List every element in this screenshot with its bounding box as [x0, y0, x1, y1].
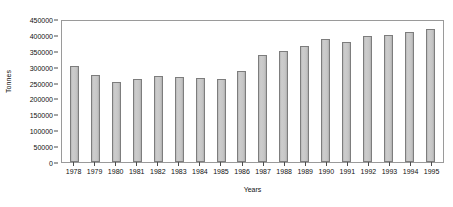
y-axis-tick-label: 100000: [30, 128, 53, 135]
y-axis-tick-mark: [54, 163, 58, 164]
bar-1994: [405, 32, 414, 162]
x-axis-tick-label: 1992: [358, 168, 379, 180]
bar-slot: [357, 21, 378, 162]
bar-1989: [300, 46, 309, 162]
y-axis-tick-labels: 0500001000001500002000002500003000003500…: [18, 14, 58, 167]
x-axis-tick-slot: [168, 162, 189, 167]
x-axis-tick-slot: [63, 162, 84, 167]
x-axis-tick-mark: [178, 162, 179, 166]
bar-slot: [378, 21, 399, 162]
x-axis-tick-slot: [295, 162, 316, 167]
bar-1982: [154, 76, 163, 162]
x-axis-tick-label: 1981: [126, 168, 147, 180]
x-axis-tick-mark: [263, 162, 264, 166]
bar-1990: [321, 39, 330, 162]
x-axis-tick-label: 1984: [189, 168, 210, 180]
bar-slot: [420, 21, 441, 162]
y-axis-tick-label: 0: [49, 160, 53, 167]
bar-1981: [133, 79, 142, 162]
x-axis-tick-label: 1980: [105, 168, 126, 180]
y-axis-tick-label: 450000: [30, 17, 53, 24]
x-axis-tick-slot: [84, 162, 105, 167]
y-axis-tick-label: 150000: [30, 112, 53, 119]
x-axis-tick-mark: [284, 162, 285, 166]
y-axis-tick-mark: [54, 147, 58, 148]
x-axis-tick-mark: [220, 162, 221, 166]
x-axis-tick-slot: [337, 162, 358, 167]
bar-1978: [70, 66, 79, 162]
y-axis-tick-label: 200000: [30, 96, 53, 103]
y-axis-title-label: Tonnes: [6, 70, 13, 93]
x-axis-tick-mark: [431, 162, 432, 166]
bar-1993: [384, 35, 393, 162]
y-axis-tick-mark: [54, 35, 58, 36]
x-axis-tick-mark: [389, 162, 390, 166]
x-axis-tick-mark: [94, 162, 95, 166]
x-axis-tick-label: 1982: [147, 168, 168, 180]
x-axis-tick-slot: [253, 162, 274, 167]
y-axis-tick-mark: [54, 99, 58, 100]
bar-1988: [279, 51, 288, 162]
y-axis-tick-label: 250000: [30, 80, 53, 87]
bar-slot: [106, 21, 127, 162]
bars-layer: [62, 21, 443, 162]
x-axis-title: Years: [61, 186, 444, 193]
plot-area: [61, 20, 444, 163]
y-axis-tick-label: 50000: [34, 144, 53, 151]
bar-1986: [237, 71, 246, 162]
x-axis-tick-label: 1979: [84, 168, 105, 180]
bar-chart-figure: Tonnes 050000100000150000200000250000300…: [0, 0, 453, 207]
bar-slot: [169, 21, 190, 162]
bar-slot: [294, 21, 315, 162]
y-axis-tick-label: 300000: [30, 64, 53, 71]
y-axis-tick-mark: [54, 83, 58, 84]
x-axis-tick-slot: [274, 162, 295, 167]
bar-1980: [112, 82, 121, 162]
x-axis-tick-slot: [379, 162, 400, 167]
x-axis-tick-label: 1994: [400, 168, 421, 180]
x-axis-tick-label: 1983: [168, 168, 189, 180]
bar-slot: [211, 21, 232, 162]
x-axis-tick-label: 1986: [232, 168, 253, 180]
y-axis-tick-mark: [54, 20, 58, 21]
bar-slot: [399, 21, 420, 162]
bar-1987: [258, 55, 267, 162]
x-axis-tick-mark: [305, 162, 306, 166]
x-axis-tick-slot: [421, 162, 442, 167]
bar-slot: [336, 21, 357, 162]
y-axis-tick-mark: [54, 51, 58, 52]
y-axis-tick-label: 400000: [30, 32, 53, 39]
x-axis-tick-slot: [316, 162, 337, 167]
x-axis-tick-label: 1987: [253, 168, 274, 180]
x-axis-tick-label: 1995: [421, 168, 442, 180]
x-axis-tick-label: 1989: [295, 168, 316, 180]
x-axis-tick-slot: [210, 162, 231, 167]
x-axis-tick-slot: [147, 162, 168, 167]
x-axis-tick-mark: [242, 162, 243, 166]
bar-1984: [196, 78, 205, 162]
x-axis-tick-mark: [115, 162, 116, 166]
bar-slot: [273, 21, 294, 162]
x-axis-tick-labels: 1978197919801981198219831984198519861987…: [61, 168, 444, 180]
y-axis-tick-mark: [54, 67, 58, 68]
bar-1995: [426, 29, 435, 162]
x-axis-tick-mark: [136, 162, 137, 166]
x-axis-tick-mark: [199, 162, 200, 166]
bar-slot: [85, 21, 106, 162]
x-axis-tick-mark: [326, 162, 327, 166]
x-axis-tick-slot: [105, 162, 126, 167]
x-axis-tick-slot: [232, 162, 253, 167]
bar-slot: [148, 21, 169, 162]
bar-slot: [315, 21, 336, 162]
x-axis-tick-mark: [73, 162, 74, 166]
bar-1983: [175, 77, 184, 162]
bar-1979: [91, 75, 100, 162]
bar-slot: [190, 21, 211, 162]
x-axis-tick-label: 1990: [316, 168, 337, 180]
x-axis-tick-slot: [189, 162, 210, 167]
bar-1991: [342, 42, 351, 162]
y-axis-tick-mark: [54, 131, 58, 132]
y-axis-title: Tonnes: [0, 0, 18, 163]
x-axis-tick-label: 1985: [210, 168, 231, 180]
x-axis-tick-mark: [347, 162, 348, 166]
